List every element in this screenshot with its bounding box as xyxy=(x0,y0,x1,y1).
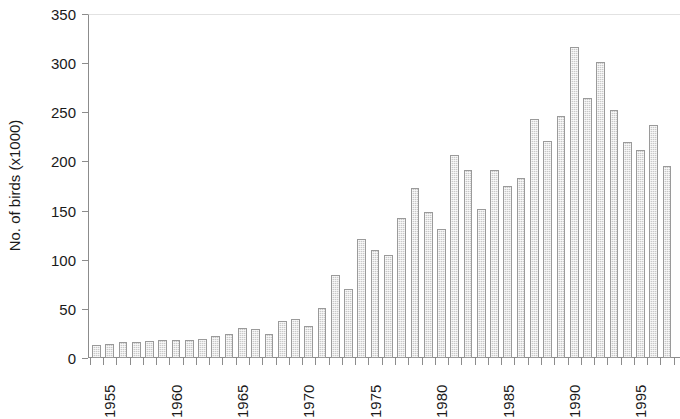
bar xyxy=(304,326,313,358)
bar xyxy=(411,188,420,358)
x-tick-mark xyxy=(196,358,197,365)
bar xyxy=(225,334,234,358)
bar xyxy=(251,329,260,358)
bar xyxy=(344,289,353,358)
y-axis-title-text: No. of birds (x1000) xyxy=(7,119,24,251)
bar xyxy=(437,229,446,358)
x-tick-mark xyxy=(329,358,330,365)
bar xyxy=(477,209,486,358)
x-tick-mark xyxy=(143,358,144,365)
x-axis-tick-labels: 195519601965197019751980198519901995 xyxy=(88,366,680,419)
x-axis-tick-marks xyxy=(88,358,680,366)
bar xyxy=(357,239,366,358)
y-axis-tick-labels: 050100150200250300350 xyxy=(30,0,82,372)
x-tick-mark xyxy=(382,358,383,365)
bar xyxy=(318,308,327,358)
y-tick-mark xyxy=(82,63,88,64)
x-tick-label: 1990 xyxy=(567,385,582,418)
bar xyxy=(185,340,194,358)
y-tick-label: 250 xyxy=(51,105,76,120)
x-tick-mark xyxy=(302,358,303,365)
x-tick-mark xyxy=(475,358,476,365)
x-tick-mark xyxy=(634,358,635,365)
bar xyxy=(198,339,207,358)
y-tick-label: 200 xyxy=(51,154,76,169)
x-tick-mark xyxy=(568,358,569,365)
x-tick-mark xyxy=(262,358,263,365)
x-tick-label: 1960 xyxy=(169,385,184,418)
bar xyxy=(278,321,287,358)
bar xyxy=(384,255,393,358)
x-tick-mark xyxy=(342,358,343,365)
y-tick-label: 50 xyxy=(59,301,76,316)
x-tick-mark xyxy=(236,358,237,365)
x-tick-mark xyxy=(103,358,104,365)
x-tick-mark xyxy=(315,358,316,365)
bar xyxy=(132,342,141,358)
bar xyxy=(331,275,340,358)
bar xyxy=(211,336,220,358)
x-tick-mark xyxy=(528,358,529,365)
x-tick-label: 1955 xyxy=(102,385,117,418)
bar xyxy=(649,125,658,358)
bar xyxy=(557,116,566,358)
x-tick-mark xyxy=(355,358,356,365)
bar xyxy=(238,328,247,358)
y-tick-mark xyxy=(82,112,88,113)
x-tick-mark xyxy=(554,358,555,365)
x-tick-mark xyxy=(90,358,91,365)
x-tick-mark xyxy=(368,358,369,365)
bar xyxy=(291,319,300,358)
bar xyxy=(172,340,181,358)
x-tick-label: 1995 xyxy=(633,385,648,418)
x-tick-label: 1980 xyxy=(434,385,449,418)
x-tick-mark xyxy=(621,358,622,365)
bar xyxy=(145,341,154,358)
y-tick-label: 150 xyxy=(51,203,76,218)
bar xyxy=(503,186,512,358)
x-tick-mark xyxy=(581,358,582,365)
bar xyxy=(570,47,579,358)
bar xyxy=(490,170,499,358)
bar xyxy=(517,178,526,358)
x-tick-mark xyxy=(130,358,131,365)
bar xyxy=(450,155,459,358)
bar xyxy=(158,340,167,358)
x-tick-mark xyxy=(435,358,436,365)
x-tick-mark xyxy=(448,358,449,365)
x-tick-mark xyxy=(395,358,396,365)
bar xyxy=(105,344,114,358)
x-tick-label: 1970 xyxy=(301,385,316,418)
bar-chart: No. of birds (x1000) 0501001502002503003… xyxy=(0,0,680,419)
y-tick-mark xyxy=(82,211,88,212)
y-tick-label: 350 xyxy=(51,7,76,22)
x-tick-mark xyxy=(674,358,675,365)
x-tick-mark xyxy=(594,358,595,365)
x-tick-label: 1965 xyxy=(235,385,250,418)
bar xyxy=(464,170,473,358)
bar xyxy=(583,98,592,358)
y-tick-label: 300 xyxy=(51,56,76,71)
bar xyxy=(92,345,101,358)
y-tick-label: 100 xyxy=(51,252,76,267)
x-tick-mark xyxy=(169,358,170,365)
x-tick-mark xyxy=(289,358,290,365)
x-tick-label: 1975 xyxy=(368,385,383,418)
x-tick-mark xyxy=(276,358,277,365)
y-tick-mark xyxy=(82,161,88,162)
x-tick-mark xyxy=(408,358,409,365)
x-tick-mark xyxy=(209,358,210,365)
x-tick-mark xyxy=(501,358,502,365)
y-tick-label: 0 xyxy=(68,351,76,366)
x-tick-mark xyxy=(116,358,117,365)
y-tick-mark xyxy=(82,358,88,359)
bar xyxy=(424,212,433,358)
x-tick-mark xyxy=(607,358,608,365)
bar xyxy=(610,110,619,358)
x-tick-mark xyxy=(422,358,423,365)
x-tick-mark xyxy=(183,358,184,365)
bar xyxy=(596,62,605,358)
bars-container xyxy=(88,14,680,358)
x-tick-mark xyxy=(647,358,648,365)
bar xyxy=(397,218,406,358)
